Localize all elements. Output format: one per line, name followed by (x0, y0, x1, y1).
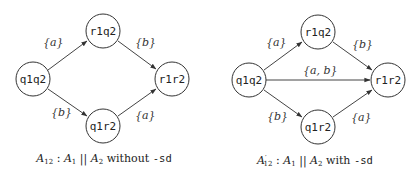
state-label: q1q2 (236, 74, 263, 87)
state-label: q1r2 (305, 121, 332, 134)
state-node-r1r2: r1r2 (155, 62, 189, 96)
edge-label: {a} (266, 36, 287, 49)
state-label: r1q2 (305, 26, 332, 39)
right-automaton-diagram: {a} {b} {a, b} {b} {a} q1q2 r1q2 q1r2 (232, 15, 405, 168)
edge-label: {b} (267, 110, 288, 123)
edge-label: {a} (43, 36, 64, 49)
edge-label: {b} (135, 36, 156, 49)
state-label: q1r2 (90, 120, 117, 133)
state-node-q1r2: q1r2 (301, 110, 335, 144)
state-label: r1q2 (90, 25, 117, 38)
diagram-canvas: {a} {b} {b} {a} q1q2 r1q2 q1r2 r1r2 (0, 0, 415, 176)
state-node-q1q2: q1q2 (16, 62, 50, 96)
state-label: r1r2 (159, 73, 186, 86)
state-label: r1r2 (375, 74, 402, 87)
left-caption: A12 : A1 || A2 without -sd (35, 152, 171, 166)
edge-label: {a} (135, 109, 156, 122)
edge-label: {a} (351, 111, 372, 124)
state-node-r1q2: r1q2 (86, 14, 120, 48)
left-automaton-diagram: {a} {b} {b} {a} q1q2 r1q2 q1r2 r1r2 (16, 14, 189, 166)
edge-label: {b} (51, 106, 72, 119)
state-node-q1q2: q1q2 (232, 63, 266, 97)
state-label: q1q2 (20, 73, 47, 86)
state-node-q1r2: q1r2 (86, 109, 120, 143)
edge-label: {b} (352, 38, 373, 51)
edge-label: {a, b} (303, 64, 338, 77)
state-node-r1r2: r1r2 (371, 63, 405, 97)
state-node-r1q2: r1q2 (301, 15, 335, 49)
right-caption: A′12 : A1 || A2 with -sd (256, 154, 373, 168)
